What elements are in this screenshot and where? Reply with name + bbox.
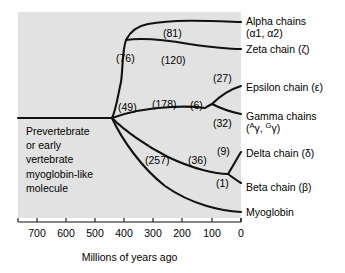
tree-branch-branch-32 — [212, 104, 241, 114]
tip-sub-alpha: (α1, α2) — [246, 28, 306, 40]
tree-branch-branch-9 — [228, 152, 241, 174]
tip-label-delta: Delta chain (δ) — [246, 148, 314, 160]
tree-branch-branch-120 — [126, 39, 241, 49]
root-text-line: vertebrate — [26, 152, 136, 166]
tree-branch-branch-27 — [212, 86, 241, 104]
branch-count-label-n178: (178) — [152, 99, 177, 110]
root-description-text: Prevertebrateor earlyvertebratemyoglobin… — [26, 124, 136, 195]
branch-count-label-n1: (1) — [216, 178, 229, 189]
tip-name-myoglobin: Myoglobin — [246, 206, 294, 218]
root-text-line: myoglobin-like — [26, 167, 136, 181]
axis-tick-label-0: 0 — [238, 227, 244, 239]
tip-label-myoglobin: Myoglobin — [246, 207, 294, 219]
root-text-line: or early — [26, 138, 136, 152]
tip-label-epsilon: Epsilon chain (ε) — [246, 82, 323, 94]
tip-name-zeta: Zeta chain (ζ) — [246, 43, 310, 55]
tree-branch-branch-76-fork — [126, 21, 241, 40]
tip-name-epsilon: Epsilon chain (ε) — [246, 81, 323, 93]
branch-count-label-n6: (6) — [190, 100, 203, 111]
tree-branch-branch-6 — [205, 104, 212, 108]
branch-count-label-n36: (36) — [188, 155, 207, 166]
root-text-line: molecule — [26, 181, 136, 195]
axis-tick-label-700: 700 — [28, 227, 46, 239]
branch-count-label-n81: (81) — [163, 28, 182, 39]
tip-sub-gamma: (Aγ, Gγ) — [246, 123, 317, 135]
branch-count-label-n9: (9) — [217, 146, 230, 157]
axis-group — [18, 218, 241, 222]
axis-tick-label-200: 200 — [173, 227, 191, 239]
axis-title: Millions of years ago — [18, 251, 241, 263]
branch-count-label-n257: (257) — [145, 155, 170, 166]
axis-tick-label-500: 500 — [86, 227, 104, 239]
branch-count-label-n76: (76) — [116, 53, 135, 64]
branch-count-label-n49: (49) — [118, 102, 137, 113]
tip-label-zeta: Zeta chain (ζ) — [246, 44, 310, 56]
tip-label-alpha: Alpha chains(α1, α2) — [246, 16, 306, 40]
axis-tick-label-600: 600 — [57, 227, 75, 239]
tip-name-delta: Delta chain (δ) — [246, 147, 314, 159]
tip-label-beta: Beta chain (β) — [246, 182, 312, 194]
branch-count-label-n27: (27) — [213, 73, 232, 84]
tip-name-beta: Beta chain (β) — [246, 181, 312, 193]
root-text-line: Prevertebrate — [26, 124, 136, 138]
axis-tick-label-100: 100 — [203, 227, 221, 239]
phylogenetic-tree-figure: Prevertebrateor earlyvertebratemyoglobin… — [0, 0, 345, 273]
tip-name-gamma: Gamma chains — [246, 110, 317, 122]
branch-count-label-n32: (32) — [213, 118, 232, 129]
axis-tick-label-300: 300 — [144, 227, 162, 239]
tip-name-alpha: Alpha chains — [246, 15, 306, 27]
tip-label-gamma: Gamma chains(Aγ, Gγ) — [246, 111, 317, 135]
tree-branch-branch-1 — [228, 174, 241, 183]
axis-tick-label-400: 400 — [115, 227, 133, 239]
branch-count-label-n120: (120) — [161, 55, 186, 66]
